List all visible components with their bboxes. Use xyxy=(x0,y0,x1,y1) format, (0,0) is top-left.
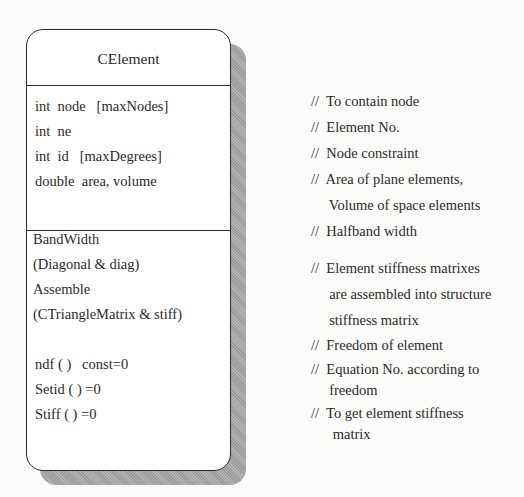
comment-ndf: // Freedom of element xyxy=(311,337,443,354)
attributes-section: int node [maxNodes] int ne int id [maxDe… xyxy=(27,86,230,231)
comment-setid-2: freedom xyxy=(311,382,377,399)
comment-setid-1: // Equation No. according to xyxy=(311,361,479,378)
comment-id: // Node constraint xyxy=(311,145,419,162)
comment-stiff-1: // To get element stiffness xyxy=(311,405,464,422)
comment-area: // Area of plane elements, xyxy=(311,171,463,188)
attribute-node: int node [maxNodes] xyxy=(35,98,168,115)
operation-assemble-params: (CTriangleMatrix & stiff) xyxy=(33,306,182,323)
attribute-ne: int ne xyxy=(35,123,71,140)
class-box-celement: CElement int node [maxNodes] int ne int … xyxy=(26,29,231,471)
operation-bandwidth: BandWidth xyxy=(33,231,99,248)
class-name: CElement xyxy=(27,30,230,86)
comment-bandwidth: // Halfband width xyxy=(311,223,417,240)
operation-stiff: Stiff ( ) =0 xyxy=(35,406,96,423)
comment-node: // To contain node xyxy=(311,93,419,110)
operation-bandwidth-params: (Diagonal & diag) xyxy=(33,256,139,273)
comment-assemble-3: stiffness matrix xyxy=(311,312,419,329)
attribute-area-volume: double area, volume xyxy=(35,173,157,190)
comment-stiff-2: matrix xyxy=(311,426,371,443)
operation-setid: Setid ( ) =0 xyxy=(35,381,101,398)
comment-assemble-2: are assembled into structure xyxy=(311,286,491,303)
operation-assemble: Assemble xyxy=(33,281,90,298)
comment-ne: // Element No. xyxy=(311,119,400,136)
operation-ndf: ndf ( ) const=0 xyxy=(35,356,128,373)
attribute-id: int id [maxDegrees] xyxy=(35,148,162,165)
comment-assemble-1: // Element stiffness matrixes xyxy=(311,260,480,277)
comment-volume: Volume of space elements xyxy=(311,197,480,214)
